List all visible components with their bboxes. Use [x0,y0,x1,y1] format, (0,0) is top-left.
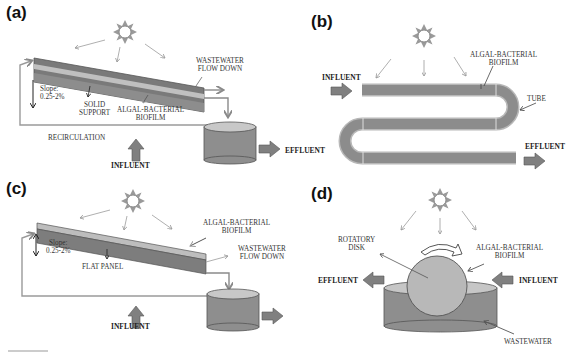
panel-label-b: (b) [311,12,333,32]
caption-fragment [8,350,48,352]
slope-label: Slope: 0.25-2% [46,239,71,255]
influent-arrow [128,139,144,161]
biofilm-label: ALGAL-BACTERIAL BIOFILM [203,219,270,235]
solid-support-label: SOLID SUPPORT [79,101,110,117]
biofilm-label: ALGAL-BACTERIAL BIOFILM [470,51,537,67]
slope-label: Slope: 0.25-2% [40,85,65,101]
settling-tank [204,122,256,164]
effluent-label: EFFLUENT [525,142,565,151]
influent-label: INFLUENT [519,276,558,285]
panel-c: (c) ALGAL-BACTERIAL BIOFILM WASTEWATER F… [0,176,288,356]
biofilm-label: ALGAL-BACTERIAL BIOFILM [476,244,543,260]
rotatory-disk-label: ROTATORY DISK [338,236,375,252]
sun-icon [412,24,436,48]
sun-icon [428,188,452,212]
wastewater-label: WASTEWATER [504,338,552,346]
panel-d: (d) ROTATORY DISK ALGAL-BACTERIAL BIOFIL… [288,176,576,356]
settling-tank [207,289,259,331]
panel-label-d: (d) [311,184,333,204]
panel-a: (a) WASTEWATER FLOW DOWN Slope: 0.25-2% … [0,0,288,178]
influent-label: INFLUENT [322,73,361,82]
influent-arrow [492,272,513,288]
recirculation-label: RECIRCULATION [48,134,105,142]
influent-label: INFLUENT [111,322,150,331]
effluent-label: EFFLUENT [318,276,358,285]
tube-label: TUBE [527,95,546,103]
panel-b: (b) ALGAL-BACTERIAL BIOFILM TUBE INFLUEN… [288,0,576,178]
panel-label-c: (c) [6,179,27,199]
influent-label: INFLUENT [111,161,150,170]
influent-arrow [331,83,352,99]
sun-icon [113,20,137,44]
wastewater-flow-label: WASTEWATER FLOW DOWN [196,57,244,73]
effluent-arrow [262,308,283,324]
rotation-arrow-icon [421,244,462,256]
serpentine-tube [345,90,516,158]
effluent-arrow [259,141,280,157]
wastewater-flow-label: WASTEWATER FLOW DOWN [238,245,286,261]
rotatory-disk [407,256,467,316]
sun-icon [121,189,145,213]
biofilm-label: ALGAL-BACTERIAL BIOFILM [117,106,184,122]
flat-panel-label: FLAT PANEL [82,263,123,271]
panel-label-a: (a) [6,3,27,23]
effluent-arrow [363,272,384,288]
effluent-arrow [524,153,545,169]
